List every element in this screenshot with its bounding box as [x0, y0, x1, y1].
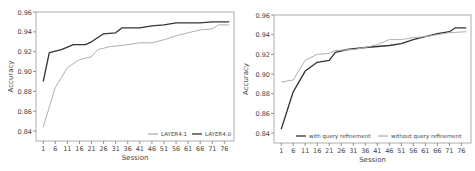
y-tick-label: 0.86 — [256, 110, 270, 118]
x-tick-label: 11 — [301, 147, 309, 155]
y-tick-label: 0.84 — [18, 128, 32, 136]
x-tick-label: 16 — [313, 147, 321, 155]
plot-frame — [36, 12, 234, 141]
x-tick-label: 6 — [53, 145, 57, 153]
x-tick-label: 56 — [172, 145, 180, 153]
x-tick-label: 76 — [220, 145, 228, 153]
legend-label: LAYER4.0 — [205, 131, 231, 137]
y-tick-label: 0.90 — [18, 68, 32, 76]
x-tick-label: 21 — [325, 147, 333, 155]
x-tick-label: 6 — [291, 147, 295, 155]
y-tick-label: 0.88 — [18, 88, 32, 96]
x-tick-label: 46 — [148, 145, 156, 153]
x-tick-label: 16 — [75, 145, 83, 153]
y-tick-label: 0.96 — [256, 12, 270, 20]
y-tick-label: 0.94 — [256, 31, 270, 39]
y-tick-label: 0.90 — [256, 71, 270, 79]
y-tick-label: 0.84 — [256, 130, 270, 138]
x-tick-label: 56 — [409, 147, 417, 155]
x-tick-label: 1 — [41, 145, 45, 153]
x-tick-label: 36 — [124, 145, 132, 153]
x-tick-label: 66 — [433, 147, 441, 155]
x-tick-label: 1 — [279, 147, 283, 155]
x-tick-label: 11 — [63, 145, 71, 153]
x-tick-label: 21 — [87, 145, 95, 153]
x-axis-label: Session — [122, 154, 149, 162]
x-tick-label: 41 — [373, 147, 381, 155]
series-line — [43, 22, 229, 82]
x-tick-label: 66 — [196, 145, 204, 153]
y-tick-label: 0.96 — [18, 9, 32, 17]
x-tick-label: 31 — [112, 145, 120, 153]
x-axis-label: Session — [359, 156, 386, 164]
x-tick-label: 31 — [349, 147, 357, 155]
legend-label: LAYER4.1 — [161, 131, 187, 137]
y-tick-label: 0.92 — [256, 51, 270, 59]
figure: 0.840.860.880.900.920.940.96161116212631… — [0, 0, 475, 171]
x-tick-label: 76 — [457, 147, 465, 155]
x-tick-label: 51 — [160, 145, 168, 153]
x-tick-label: 26 — [99, 145, 107, 153]
x-tick-label: 61 — [421, 147, 429, 155]
x-tick-label: 61 — [184, 145, 192, 153]
x-tick-label: 71 — [445, 147, 453, 155]
legend-label: with query refinement — [309, 133, 371, 140]
x-tick-label: 71 — [208, 145, 216, 153]
legend-label: without query refinement — [391, 133, 462, 140]
chart-query-refinement: 0.840.860.880.900.920.940.96161116212631… — [238, 0, 475, 171]
y-tick-label: 0.88 — [256, 90, 270, 98]
series-line — [43, 25, 229, 127]
x-tick-label: 36 — [361, 147, 369, 155]
x-tick-label: 41 — [136, 145, 144, 153]
x-tick-label: 46 — [385, 147, 393, 155]
y-tick-label: 0.92 — [18, 48, 32, 56]
x-tick-label: 51 — [397, 147, 405, 155]
y-tick-label: 0.86 — [18, 108, 32, 116]
x-tick-label: 26 — [337, 147, 345, 155]
chart-layer-comparison: 0.840.860.880.900.920.940.96161116212631… — [0, 0, 238, 171]
y-tick-label: 0.94 — [18, 28, 32, 36]
y-axis-label: Accuracy — [242, 63, 250, 95]
y-axis-label: Accuracy — [7, 61, 15, 93]
series-line — [281, 32, 466, 82]
series-line — [281, 28, 466, 129]
